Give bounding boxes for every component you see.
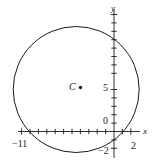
center-label-c: C [69, 82, 76, 92]
circle-graph-figure: y x 5 0 −2 −11 2 C [0, 0, 156, 165]
origin-label-0: 0 [103, 116, 108, 126]
x-tick-label-2: 2 [131, 141, 136, 151]
center-point-marker [79, 86, 82, 89]
y-tick-label-neg2: −2 [98, 146, 109, 156]
x-axis-label: x [143, 127, 147, 136]
y-tick-label-5: 5 [103, 83, 108, 93]
x-tick-label-neg11: −11 [12, 139, 27, 149]
y-axis-label: y [111, 4, 115, 13]
circle-shape [13, 27, 139, 153]
